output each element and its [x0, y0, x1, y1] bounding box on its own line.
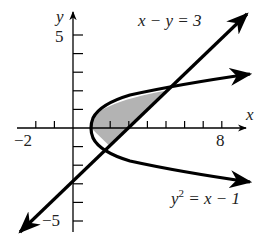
line-equation-label: x − y = 3 [138, 12, 202, 29]
parabola-eq-rest: = x − 1 [184, 189, 240, 208]
y-tick-label-5: 5 [55, 28, 64, 45]
shaded-region [91, 91, 166, 147]
y-axis-label: y [56, 8, 64, 25]
parabola-equation-label: y2 = x − 1 [171, 188, 240, 207]
graph: y 5 −5 −2 8 x x − y = 3 y2 = x − 1 [0, 0, 267, 235]
x-axis-label: x [246, 106, 254, 123]
parabola-eq-y: y [171, 189, 179, 208]
x-tick-label-8: 8 [216, 132, 225, 149]
y-tick-label-neg5: −5 [42, 212, 60, 229]
x-tick-label-neg2: −2 [14, 132, 32, 149]
